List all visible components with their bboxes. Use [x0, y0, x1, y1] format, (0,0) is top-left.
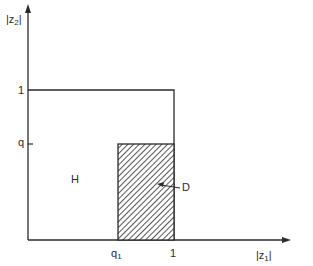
region-diagram: |z2| |z1| 1 q q1 1 H D: [0, 0, 313, 266]
y-tick-label-q: q: [18, 137, 24, 148]
region-d-label: D: [182, 182, 190, 193]
region-d-hatched: [118, 144, 174, 240]
x-tick-label-1: 1: [170, 248, 176, 259]
diagram-canvas: [0, 0, 313, 266]
region-h-label: H: [71, 174, 79, 185]
x-axis-arrow-icon: [282, 237, 291, 243]
y-axis: [25, 4, 31, 240]
x-axis-label: |z1|: [256, 250, 272, 263]
x-tick-label-q1: q1: [111, 248, 122, 261]
y-axis-label: |z2|: [6, 14, 22, 27]
y-tick-label-1: 1: [18, 85, 24, 96]
y-axis-arrow-icon: [25, 4, 31, 13]
